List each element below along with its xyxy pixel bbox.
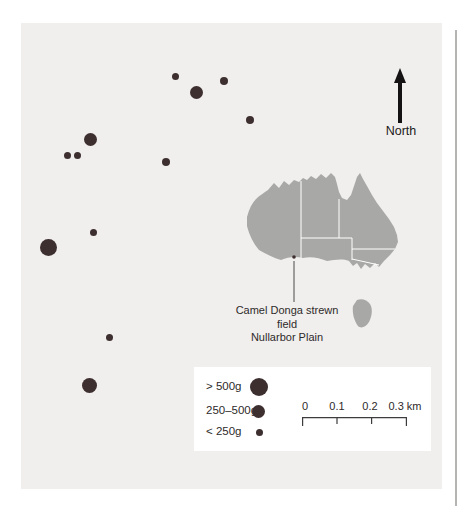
scale-bar (302, 417, 407, 427)
meteorite-find-dot (64, 152, 71, 159)
legend-label-small: < 250g (206, 425, 242, 437)
scale-tick-label-01: 0.1 (329, 400, 344, 412)
north-label: North (379, 124, 423, 138)
meteorite-find-dot (162, 158, 170, 166)
legend-circle-small (256, 429, 264, 437)
north-arrow-icon (391, 68, 409, 124)
inset-label-line1: Camel Donga strewn field (227, 304, 347, 331)
legend-circle-medium (252, 405, 265, 418)
legend-label-large: > 500g (206, 380, 242, 392)
inset-label-line2: Nullarbor Plain (227, 331, 347, 345)
scale-tick-label-03km: 0.3 km (388, 400, 421, 412)
legend-label-medium: 250–500g (206, 404, 257, 416)
page-border-line (455, 30, 457, 506)
meteorite-find-dot (74, 152, 81, 159)
legend-box: > 500g 250–500g < 250g 0 0.1 0.2 0.3 km (194, 367, 431, 451)
meteorite-find-dot (84, 133, 97, 146)
meteorite-find-dot (90, 229, 97, 236)
tasmania-silhouette (353, 299, 372, 327)
meteorite-find-dot (220, 77, 228, 85)
meteorite-find-dot (82, 378, 97, 393)
meteorite-find-dot (172, 73, 179, 80)
legend-circle-large (250, 378, 268, 396)
meteorite-find-dot (40, 239, 57, 256)
scale-tick-label-0: 0 (302, 400, 308, 412)
meteorite-find-dot (106, 334, 113, 341)
meteorite-find-dot (246, 116, 254, 124)
scale-tick-label-02: 0.2 (362, 400, 377, 412)
strewn-field-marker (292, 255, 296, 259)
australia-silhouette (247, 173, 398, 269)
figure-canvas: North Camel Donga strewn field Nullarbor… (0, 0, 467, 506)
inset-label: Camel Donga strewn field Nullarbor Plain (227, 304, 347, 345)
meteorite-find-dot (190, 86, 203, 99)
